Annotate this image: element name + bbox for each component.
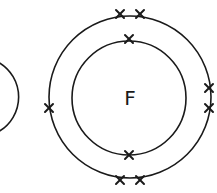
element-symbol: F — [124, 86, 136, 110]
fluorine-shell-diagram: F — [0, 0, 217, 193]
neighbour-outer-shell-arc — [0, 62, 19, 132]
outer-electron-right-upper — [205, 84, 213, 92]
outer-electron-right-lower — [205, 104, 213, 112]
